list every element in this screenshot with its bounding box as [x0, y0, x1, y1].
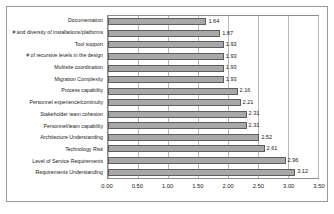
bar-row: 1.93 — [108, 53, 318, 60]
bar-value-label: 2.61 — [267, 146, 278, 152]
bar-row: 2.31 — [108, 111, 318, 118]
category-label: Migration Complexity — [9, 76, 105, 83]
bar-row: 1.93 — [108, 41, 318, 48]
bar — [108, 134, 259, 141]
chart-frame: Documentation# and diversity of installa… — [6, 6, 328, 202]
bar — [108, 53, 224, 60]
category-label: Personnel experience/continuity — [9, 99, 105, 106]
bar-row: 1.87 — [108, 30, 318, 37]
x-tick-label: 3.00 — [283, 183, 294, 189]
x-tick-label: 0.00 — [101, 183, 112, 189]
category-label: Process capability — [9, 88, 105, 95]
bar-rows: 1.641.871.931.931.931.932.162.212.312.31… — [108, 16, 318, 178]
category-label: Multisite coordination — [9, 64, 105, 71]
x-tick-label: 0.50 — [132, 183, 143, 189]
x-tick-label: 3.50 — [313, 183, 324, 189]
x-tick-label: 1.50 — [192, 183, 203, 189]
bar-row: 2.52 — [108, 134, 318, 141]
bar-value-label: 2.16 — [240, 88, 251, 94]
bar — [108, 76, 224, 83]
bar-row: 2.31 — [108, 122, 318, 129]
bar-value-label: 1.87 — [222, 31, 233, 37]
bar-value-label: 1.93 — [226, 77, 237, 83]
bar — [108, 65, 224, 72]
bar — [108, 111, 247, 118]
bar — [108, 122, 247, 129]
bar-row: 2.96 — [108, 157, 318, 164]
bar — [108, 30, 220, 37]
category-label: # of recursive levels in the design — [9, 52, 105, 59]
category-label: # and diversity of installations/platfor… — [9, 29, 105, 36]
category-label: Level of Service Requirements — [9, 158, 105, 165]
x-tick-label: 2.00 — [222, 183, 233, 189]
bar-row: 1.93 — [108, 76, 318, 83]
bar — [108, 169, 295, 176]
bar — [108, 18, 206, 25]
bar-value-label: 2.52 — [261, 135, 272, 141]
category-axis-labels: Documentation# and diversity of installa… — [9, 15, 105, 179]
gridline — [318, 16, 319, 178]
bar — [108, 88, 238, 95]
bar — [108, 99, 241, 106]
bar-value-label: 1.93 — [226, 54, 237, 60]
bar-value-label: 1.93 — [226, 42, 237, 48]
bar-row: 1.64 — [108, 18, 318, 25]
bar-row: 2.21 — [108, 99, 318, 106]
bar-row: 3.12 — [108, 169, 318, 176]
plot-area: 1.641.871.931.931.931.932.162.212.312.31… — [107, 15, 319, 179]
category-label: Documentation — [9, 17, 105, 24]
category-label: Personnel/team capability — [9, 123, 105, 130]
bar — [108, 145, 265, 152]
bar-row: 1.93 — [108, 65, 318, 72]
category-label: Tool support — [9, 41, 105, 48]
bar-row: 2.16 — [108, 88, 318, 95]
bar — [108, 157, 286, 164]
category-label: Requirements Understanding — [9, 169, 105, 176]
bar — [108, 41, 224, 48]
bar-value-label: 3.12 — [297, 169, 308, 175]
x-axis-tick-labels: 0.000.501.001.502.002.503.003.50 — [107, 181, 319, 195]
bar-value-label: 2.31 — [249, 111, 260, 117]
category-label: Stakeholder team cohesion — [9, 111, 105, 118]
bar-value-label: 2.96 — [288, 158, 299, 164]
category-label: Architecture Understanding — [9, 134, 105, 141]
bar-value-label: 2.31 — [249, 123, 260, 129]
bar-value-label: 1.93 — [226, 65, 237, 71]
bar-value-label: 1.64 — [208, 19, 219, 25]
category-label: Technology Risk — [9, 146, 105, 153]
x-tick-label: 1.00 — [162, 183, 173, 189]
x-tick-label: 2.50 — [253, 183, 264, 189]
bar-row: 2.61 — [108, 145, 318, 152]
bar-chart-figure: Documentation# and diversity of installa… — [0, 0, 334, 214]
bar-value-label: 2.21 — [243, 100, 254, 106]
